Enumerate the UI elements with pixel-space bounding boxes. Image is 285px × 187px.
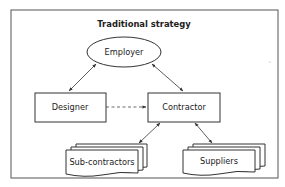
node-employer-label: Employer — [105, 47, 145, 57]
node-designer-label: Designer — [52, 102, 89, 112]
node-contractor: Contractor — [148, 93, 220, 122]
edge-employer-designer — [69, 64, 96, 91]
edge-contractor-subcontractors — [139, 123, 160, 143]
diagram-title: Traditional strategy — [97, 19, 191, 29]
edge-contractor-suppliers — [195, 123, 212, 143]
node-employer: Employer — [87, 37, 161, 67]
node-subcontractors-label: Sub-contractors — [69, 157, 134, 167]
node-contractor-label: Contractor — [162, 102, 206, 112]
node-designer: Designer — [35, 93, 106, 122]
node-suppliers: Suppliers — [183, 144, 265, 175]
stray-dot — [269, 61, 270, 62]
node-subcontractors: Sub-contractors — [66, 144, 147, 176]
edge-employer-contractor — [152, 64, 183, 91]
traditional-strategy-diagram: Traditional strategy Employer Designer C… — [0, 0, 285, 187]
node-suppliers-label: Suppliers — [200, 156, 238, 166]
